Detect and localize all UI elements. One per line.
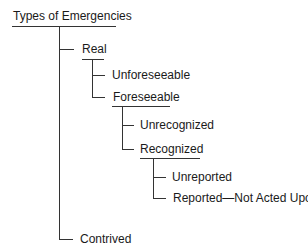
node-contrived: Contrived: [80, 232, 131, 246]
unreported-branch: [153, 177, 166, 178]
root-title: Types of Emergencies: [13, 9, 132, 23]
foreseeable-connector: [122, 106, 123, 150]
node-real: Real: [82, 42, 107, 56]
real-underline: [82, 59, 104, 60]
recognized-connector: [153, 158, 154, 199]
unforeseeable-branch: [92, 75, 105, 76]
root-underline: [12, 26, 116, 27]
unrecognized-branch: [122, 125, 134, 126]
node-reported-not-acted-upon: Reported—Not Acted Upon: [173, 191, 308, 205]
foreseeable-branch: [92, 97, 105, 98]
recognized-underline: [140, 158, 200, 159]
root-connector: [59, 26, 60, 240]
node-recognized: Recognized: [140, 142, 203, 156]
node-unrecognized: Unrecognized: [140, 118, 214, 132]
node-foreseeable: Foreseeable: [113, 90, 180, 104]
node-unreported: Unreported: [172, 170, 232, 184]
recognized-branch: [122, 149, 134, 150]
real-connector: [92, 59, 93, 97]
contrived-branch: [59, 239, 73, 240]
node-unforeseeable: Unforeseeable: [112, 68, 190, 82]
reported-branch: [153, 198, 166, 199]
real-branch: [59, 49, 74, 50]
foreseeable-underline: [112, 106, 170, 107]
